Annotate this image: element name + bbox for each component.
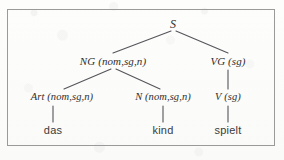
tree-leaf-spielt: spielt	[215, 124, 242, 136]
edge-s-to-vg	[176, 31, 228, 53]
tree-node-ng: NG (nom,sg,n)	[80, 55, 146, 67]
edge-ng-to-n	[116, 69, 160, 89]
edge-s-to-ng	[113, 31, 171, 53]
tree-leaf-kind: kind	[153, 124, 174, 136]
tree-node-s: S	[170, 17, 176, 32]
tree-leaf-das: das	[44, 124, 62, 136]
tree-node-vg: VG (sg)	[210, 55, 245, 67]
tree-edges-canvas	[0, 0, 284, 160]
parse-tree-figure: S NG (nom,sg,n) VG (sg) Art (nom,sg,n) N…	[0, 0, 284, 160]
tree-node-art: Art (nom,sg,n)	[31, 91, 93, 102]
tree-node-n: N (nom,sg,n)	[135, 91, 191, 102]
tree-node-v: V (sg)	[215, 91, 241, 102]
edge-ng-to-art	[64, 69, 111, 89]
